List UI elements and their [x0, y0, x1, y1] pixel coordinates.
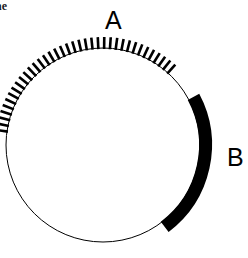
arc-a-hatch-tick [153, 53, 159, 63]
arc-a-hatch-tick [38, 59, 45, 69]
arc-a-hatch-tick [116, 38, 118, 50]
diagram-geometry [0, 37, 205, 242]
arc-a-hatch-tick [85, 39, 87, 51]
arc-a-hatch-tick [54, 49, 59, 60]
arc-label-b: B [227, 145, 244, 170]
arc-a-hatch-tick [0, 130, 8, 132]
arc-a-hatch-tick [8, 93, 19, 99]
arc-a-hatch-tick [121, 39, 123, 51]
arc-a-hatch-tick [163, 61, 170, 70]
arc-a-hatched-segment [0, 37, 175, 132]
arc-a-hatch-tick [0, 124, 9, 126]
arc-a-hatch-tick [158, 57, 165, 67]
arc-a-hatch-tick [60, 46, 65, 57]
arc-a-hatch-tick [48, 52, 54, 62]
arc-a-hatch-tick [143, 47, 148, 58]
arc-label-a: A [105, 8, 122, 33]
arc-a-hatch-tick [28, 67, 36, 76]
arc-a-hatch-tick [5, 99, 16, 104]
arc-b-solid-segment [165, 97, 206, 227]
arc-a-hatch-tick [127, 40, 130, 52]
arc-a-hatch-tick [110, 37, 111, 49]
arc-a-hatch-tick [19, 77, 28, 85]
arc-a-hatch-tick [15, 82, 25, 89]
arc-a-hatch-tick [91, 38, 92, 50]
arc-a-hatch-tick [148, 50, 154, 61]
arc-a-hatch-tick [12, 88, 22, 94]
arc-a-hatch-tick [0, 117, 10, 120]
arc-a-hatch-tick [79, 40, 82, 52]
arc-a-hatch-tick [3, 105, 14, 109]
circular-arc-diagram [0, 0, 248, 258]
figure-root: he A B [0, 0, 248, 258]
arc-a-hatch-tick [98, 37, 99, 49]
arc-a-hatch-tick [43, 55, 50, 65]
arc-a-hatch-tick [23, 72, 32, 80]
arc-a-hatch-tick [33, 63, 41, 72]
arc-a-hatch-tick [132, 42, 136, 53]
arc-a-hatch-tick [72, 41, 75, 53]
base-circle [6, 48, 200, 242]
arc-a-hatch-tick [167, 65, 175, 74]
arc-a-hatch-tick [66, 44, 70, 55]
arc-a-hatch-tick [138, 44, 142, 55]
arc-a-hatch-tick [0, 111, 11, 115]
